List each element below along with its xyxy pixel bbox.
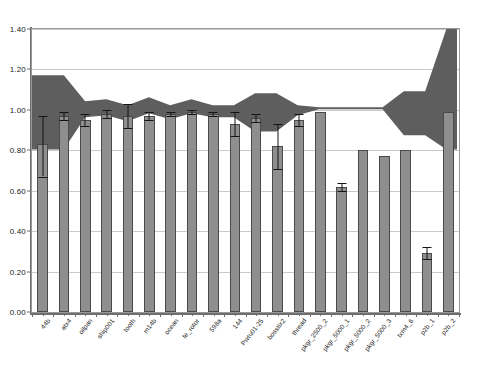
bar[interactable] (358, 150, 369, 312)
x-tick-mark-minor (320, 313, 321, 316)
error-bar-cap-top (60, 112, 69, 113)
error-bar-line (277, 124, 278, 169)
error-bar (37, 29, 48, 312)
bar[interactable] (443, 112, 454, 312)
error-bar-cap-bottom (124, 128, 133, 129)
x-tick-mark-minor (384, 313, 385, 316)
error-bar (123, 29, 134, 312)
error-bar-cap-bottom (188, 114, 197, 115)
error-bar-cap-top (294, 114, 303, 115)
error-bar-cap-bottom (337, 191, 346, 192)
x-tick-mark-minor (363, 313, 364, 316)
error-bar (80, 29, 91, 312)
error-bar-cap-top (38, 116, 47, 117)
error-bar-cap-top (230, 112, 239, 113)
error-bar (165, 29, 176, 312)
error-bar (251, 29, 262, 312)
x-tick-label: p2b_2 (440, 317, 457, 336)
error-bar-cap-top (166, 112, 175, 113)
error-bar-cap-bottom (252, 122, 261, 123)
error-bar-cap-bottom (209, 116, 218, 117)
error-bar-cap-top (102, 110, 111, 111)
x-tick-mark-minor (214, 313, 215, 316)
x-tick-label: oilpan (77, 317, 94, 335)
x-tick-label: 598a (207, 317, 222, 333)
error-bar-cap-bottom (60, 120, 69, 121)
envelope-band (32, 29, 459, 312)
error-bar (101, 29, 112, 312)
error-bar (59, 29, 70, 312)
error-bar-cap-top (124, 104, 133, 105)
x-tick-mark-minor (171, 313, 172, 316)
error-bar-cap-bottom (145, 120, 154, 121)
x-tick-label: 144 (231, 317, 243, 330)
y-tick-mark (27, 109, 31, 110)
error-bar-line (149, 112, 150, 120)
error-bar-cap-bottom (38, 177, 47, 178)
bar[interactable] (379, 156, 390, 312)
error-bar-line (85, 114, 86, 126)
x-tick-label: fe_rotor (181, 317, 201, 340)
x-tick-mark-minor (278, 313, 279, 316)
x-tick-label: bosstix2 (265, 317, 286, 341)
error-bar-cap-bottom (294, 126, 303, 127)
x-tick-label: 44b (39, 317, 51, 330)
y-tick-mark (27, 29, 31, 30)
x-tick-mark-minor (342, 313, 343, 316)
error-bar-cap-bottom (230, 136, 239, 137)
x-tick-label: p2b_1 (419, 317, 436, 336)
bar[interactable] (400, 150, 411, 312)
error-bar (187, 29, 198, 312)
error-bar-cap-bottom (422, 259, 431, 260)
x-tick-labels: 44batx4oilpanship001toothm14boceanfe_rot… (31, 317, 460, 372)
x-tick-mark-minor (299, 313, 300, 316)
y-tick-mark (27, 271, 31, 272)
error-bar (208, 29, 219, 312)
x-tick-mark-minor (448, 313, 449, 316)
error-bar-cap-bottom (166, 116, 175, 117)
error-bar (294, 29, 305, 312)
y-tick-mark (27, 312, 31, 313)
error-bar-cap-top (209, 112, 218, 113)
error-bar (144, 29, 155, 312)
error-bar-line (42, 116, 43, 177)
x-tick-label: m14b (142, 317, 158, 334)
error-bar-line (106, 110, 107, 118)
error-bar (422, 29, 433, 312)
error-bar-cap-top (422, 247, 431, 248)
x-tick-label: txm4_6 (395, 317, 414, 339)
error-bar (272, 29, 283, 312)
error-bar-line (234, 112, 235, 136)
plot-area (31, 28, 460, 313)
x-tick-mark-minor (128, 313, 129, 316)
error-bar-line (426, 247, 427, 259)
x-tick-label: thread (290, 317, 307, 336)
error-bar-cap-bottom (273, 169, 282, 170)
error-bar-cap-top (252, 114, 261, 115)
x-tick-mark-minor (85, 313, 86, 316)
x-tick-mark-minor (406, 313, 407, 316)
x-tick-mark-minor (43, 313, 44, 316)
x-tick-mark-minor (64, 313, 65, 316)
x-tick-label: ship001 (95, 317, 115, 340)
x-tick-mark-minor (192, 313, 193, 316)
error-bar-line (341, 183, 342, 191)
y-tick-mark (27, 190, 31, 191)
bar[interactable] (315, 112, 326, 312)
error-bar-cap-top (188, 110, 197, 111)
y-tick-mark (27, 150, 31, 151)
x-tick-mark-minor (107, 313, 108, 316)
x-tick-label: atx4 (59, 317, 72, 331)
chart-container: 0.000.200.400.600.801.001.201.40 44batx4… (0, 0, 479, 372)
error-bar-cap-top (337, 183, 346, 184)
error-bar (230, 29, 241, 312)
error-bar-cap-bottom (102, 118, 111, 119)
x-tick-mark-minor (235, 313, 236, 316)
x-tick-mark-minor (427, 313, 428, 316)
y-tick-mark (27, 231, 31, 232)
error-bar-line (298, 114, 299, 126)
error-bar-line (256, 114, 257, 122)
error-bar-cap-bottom (81, 126, 90, 127)
x-tick-label: tooth (122, 317, 137, 333)
error-bar-cap-top (145, 112, 154, 113)
